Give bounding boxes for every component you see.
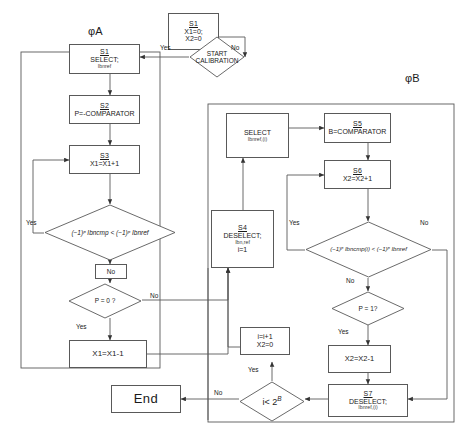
node-loop-increment-line2: X2=0 xyxy=(257,341,274,349)
edge-label-b-no-below: No xyxy=(346,277,354,284)
node-a-s2-line1: P=-COMPARATOR xyxy=(74,110,134,118)
node-start-calibration[interactable]: START CALIBRATION xyxy=(189,36,245,78)
node-b-s6-line1: X2=X2+1 xyxy=(343,175,372,183)
node-b-s5-id: S5 xyxy=(353,120,362,128)
edge-label-a-compare-yes: Yes xyxy=(26,219,37,226)
node-b-s6[interactable]: S6 X2=X2+1 xyxy=(324,160,391,189)
node-end[interactable]: End xyxy=(111,385,181,413)
node-s4-line2: i=1 xyxy=(238,246,248,254)
node-b-s5[interactable]: S5 B=COMPARATOR xyxy=(324,113,391,143)
group-label-phiB: φB xyxy=(405,72,419,84)
node-loop-increment-line1: i=i+1 xyxy=(257,333,272,341)
node-a-compare[interactable]: (−1)ᵖ Ibncmp < (−1)ᵖ Ibnref xyxy=(44,204,176,261)
node-b-compare-label: (−1)ᵖ Ibncmp(i) < (−1)ᵖ Ibnref xyxy=(330,246,407,253)
edge-label-loop-no: No xyxy=(214,389,222,396)
node-end-label: End xyxy=(134,392,159,407)
node-init-s1-line1: X1=0; xyxy=(184,28,203,36)
node-s4-id: S4 xyxy=(238,224,247,232)
node-loop-test[interactable]: i< 2B xyxy=(239,381,305,422)
node-b-s7-id: S7 xyxy=(364,390,373,398)
node-a-s1-sub: Ibnref xyxy=(98,64,111,70)
node-a-s2-id: S2 xyxy=(100,102,109,110)
node-a-s3[interactable]: S3 X1=X1+1 xyxy=(69,145,140,174)
node-loop-increment[interactable]: i=i+1 X2=0 xyxy=(240,327,290,355)
node-loop-test-label: i< 2B xyxy=(262,395,281,408)
node-a-compare-label: (−1)ᵖ Ibncmp < (−1)ᵖ Ibnref xyxy=(71,229,148,236)
flowchart-canvas: φA φB S1 X1=0; X2=0 START CALIBRATION Ye… xyxy=(0,0,473,436)
node-start-calibration-label: START CALIBRATION xyxy=(196,50,239,64)
node-a-s1-id: S1 xyxy=(100,48,109,56)
loop-test-text: i< 2 xyxy=(262,397,277,407)
edge-label-b-p1-yes: Yes xyxy=(338,328,349,335)
node-b-s5-line1: B=COMPARATOR xyxy=(329,128,387,136)
node-b-p1-label: P = 1? xyxy=(359,305,378,312)
node-b-p1[interactable]: P = 1? xyxy=(331,291,405,326)
node-a-decrement-line1: X1=X1-1 xyxy=(92,350,123,359)
node-b-select-sub: Ibnref,(i) xyxy=(248,137,267,143)
node-b-compare[interactable]: (−1)ᵖ Ibncmp(i) < (−1)ᵖ Ibnref xyxy=(305,221,432,278)
node-s4-deselect[interactable]: S4 DESELECT; Ibn,ref i=1 xyxy=(211,210,274,268)
edge-label-a-p0-yes: Yes xyxy=(76,323,87,330)
node-b-s7-sub: Ibnref,(i) xyxy=(358,405,377,411)
edge-label-start-yes: Yes xyxy=(160,44,171,51)
node-a-s1[interactable]: S1 SELECT; Ibnref xyxy=(69,44,140,74)
start-line1: START xyxy=(207,50,228,57)
node-b-decrement[interactable]: X2=X2-1 xyxy=(328,345,391,373)
edge-label-b-compare-yes: Yes xyxy=(289,219,300,226)
node-a-p0-label: P = 0 ? xyxy=(95,297,116,304)
edge-label-loop-yes: Yes xyxy=(248,366,259,373)
node-a-s2[interactable]: S2 P=-COMPARATOR xyxy=(69,95,140,124)
edge-label-b-compare-no: No xyxy=(420,219,428,226)
node-a-no-tag-label: No xyxy=(107,268,115,275)
node-b-decrement-line1: X2=X2-1 xyxy=(345,355,374,363)
group-label-phiA: φA xyxy=(88,25,102,37)
node-a-s3-line1: X1=X1+1 xyxy=(90,160,119,168)
node-a-p0[interactable]: P = 0 ? xyxy=(68,283,142,319)
edge-label-a-p0-no: No xyxy=(150,292,158,299)
node-b-s6-id: S6 xyxy=(353,167,362,175)
node-a-s3-id: S3 xyxy=(100,152,109,160)
start-line2: CALIBRATION xyxy=(196,57,239,64)
loop-test-exponent: B xyxy=(277,395,281,402)
node-b-s7[interactable]: S7 DESELECT; Ibnref,(i) xyxy=(328,384,408,417)
node-a-decrement[interactable]: X1=X1-1 xyxy=(69,340,147,368)
node-b-select[interactable]: SELECT Ibnref,(i) xyxy=(226,113,289,158)
node-a-no-tag: No xyxy=(95,264,127,279)
node-init-s1-id: S1 xyxy=(189,20,198,28)
